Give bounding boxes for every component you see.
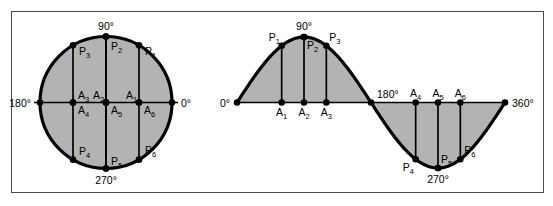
wave-degree-270: 270°	[427, 173, 449, 185]
wave-axis-dot-0	[234, 99, 241, 106]
circle-point-P3	[70, 42, 77, 49]
circle-degree-0: 0°	[181, 97, 191, 109]
wave-label-P3: P3	[329, 31, 340, 46]
wave-degree-360: 360°	[512, 97, 534, 109]
wave-degree-180: 180°	[377, 88, 399, 100]
circle-point-P1	[136, 42, 143, 49]
wave-point-P5	[435, 165, 442, 172]
wave-axis-dot-360	[502, 99, 509, 106]
circle-degree-180: 180°	[9, 97, 31, 109]
wave-point-P3	[323, 42, 330, 49]
wave-label-A2: A2	[298, 106, 309, 121]
wave-point-P4	[412, 156, 419, 163]
wave-point-P6	[457, 156, 464, 163]
circle-point-P2	[103, 33, 110, 40]
wave-label-P1: P1	[269, 31, 280, 46]
circle-point-P6	[136, 156, 143, 163]
circle-axis-dot-180	[37, 99, 44, 106]
wave-label-P4: P4	[403, 161, 414, 176]
wave-degree-90: 90°	[296, 20, 312, 32]
diagram-canvas: P1P2P3P4P5P6A1A2A3A4A5A60°90°180°270°P1P…	[0, 0, 553, 206]
wave-axis-dot-180	[368, 99, 375, 106]
circle-degree-90: 90°	[98, 20, 114, 32]
circle-degree-270: 270°	[95, 174, 117, 186]
circle-point-P5	[103, 165, 110, 172]
circle-point-P4	[70, 156, 77, 163]
circle-foot-A4	[70, 99, 77, 106]
wave-label-A1: A1	[276, 106, 287, 121]
wave-label-A3: A3	[321, 106, 332, 121]
figure-svg: P1P2P3P4P5P6A1A2A3A4A5A60°90°180°270°P1P…	[0, 0, 553, 206]
circle-axis-dot-0	[169, 99, 176, 106]
wave-degree-0: 0°	[220, 97, 230, 109]
